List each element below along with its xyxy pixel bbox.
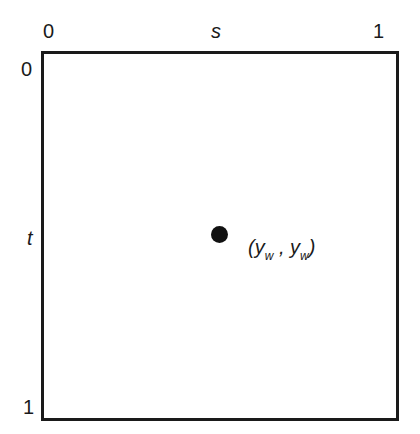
t-axis-start-label: 0 xyxy=(21,59,32,79)
s-axis-start-label: 0 xyxy=(43,21,54,41)
s-axis-end-label: 1 xyxy=(373,21,384,41)
t-axis-label: t xyxy=(27,228,33,248)
point-label: (yw , yw) xyxy=(248,236,315,263)
point-marker xyxy=(211,226,228,243)
t-axis-end-label: 1 xyxy=(23,397,34,417)
s-axis-label: s xyxy=(211,21,221,41)
